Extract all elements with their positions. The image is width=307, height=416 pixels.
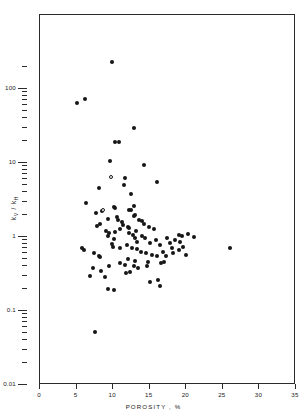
data-point xyxy=(150,253,154,257)
y-axis-minor-tick xyxy=(22,326,27,327)
data-point xyxy=(113,206,117,210)
y-axis-minor-tick xyxy=(22,275,27,276)
data-point xyxy=(144,251,148,255)
data-point xyxy=(145,264,149,268)
y-axis-tick-label: 100 xyxy=(5,85,16,91)
y-axis-major-tick xyxy=(18,88,27,89)
data-point xyxy=(139,250,143,254)
data-point xyxy=(110,60,114,64)
data-point xyxy=(171,251,175,255)
y-axis-minor-tick xyxy=(22,339,27,340)
data-points-layer xyxy=(40,15,294,383)
y-axis-title-numerator: k xyxy=(10,216,17,220)
x-axis-tick-label: 0 xyxy=(37,391,41,398)
x-axis-tick xyxy=(112,384,113,389)
x-axis-tick-label: 10 xyxy=(108,391,115,398)
y-axis-minor-tick xyxy=(22,169,27,170)
data-point xyxy=(136,266,140,270)
y-axis-minor-tick xyxy=(22,91,27,92)
y-axis-minor-tick xyxy=(22,178,27,179)
data-point xyxy=(135,240,139,244)
y-axis-title-denominator-sub: H xyxy=(14,196,19,200)
plot-area xyxy=(39,14,295,384)
data-point xyxy=(97,186,101,190)
data-point xyxy=(180,234,184,238)
data-point xyxy=(112,288,116,292)
y-axis-title-denominator: k xyxy=(10,200,17,204)
data-point xyxy=(181,245,185,249)
y-axis-minor-tick xyxy=(22,165,27,166)
y-axis-minor-tick xyxy=(22,332,27,333)
data-point xyxy=(148,280,152,284)
y-axis-minor-tick xyxy=(22,184,27,185)
x-axis: 05101520253035 POROSITY , % xyxy=(0,384,307,416)
y-axis-tick-label: 1 xyxy=(12,233,16,239)
data-point xyxy=(165,236,169,240)
data-point xyxy=(147,225,151,229)
data-point xyxy=(155,180,159,184)
data-point xyxy=(184,253,188,257)
y-axis-minor-tick xyxy=(22,258,27,259)
data-point xyxy=(129,192,133,196)
data-point xyxy=(106,234,110,238)
y-axis-minor-tick xyxy=(22,191,27,192)
data-point xyxy=(122,183,126,187)
y-axis-minor-tick xyxy=(22,127,27,128)
data-point xyxy=(164,254,168,258)
data-point xyxy=(135,247,139,251)
data-point xyxy=(128,270,132,274)
data-point xyxy=(92,251,96,255)
data-point xyxy=(177,248,181,252)
x-axis-tick xyxy=(222,384,223,389)
y-axis-minor-tick xyxy=(22,265,27,266)
data-point xyxy=(162,260,166,264)
x-axis-tick-label: 20 xyxy=(182,391,189,398)
data-point xyxy=(106,217,110,221)
data-point xyxy=(113,230,117,234)
x-axis-tick xyxy=(258,384,259,389)
x-axis-tick xyxy=(39,384,40,389)
y-axis-minor-tick xyxy=(22,99,27,100)
data-point xyxy=(132,126,136,130)
data-point xyxy=(117,140,121,144)
data-point xyxy=(109,175,113,179)
data-point xyxy=(111,245,115,249)
data-point xyxy=(112,237,116,241)
data-point xyxy=(133,259,137,263)
data-point xyxy=(98,255,102,259)
y-axis-minor-tick xyxy=(22,173,27,174)
data-point xyxy=(106,287,110,291)
data-point xyxy=(82,248,86,252)
data-point xyxy=(75,101,79,105)
x-axis-title: POROSITY , % xyxy=(0,403,307,410)
data-point xyxy=(146,260,150,264)
y-axis-minor-tick xyxy=(22,95,27,96)
data-point xyxy=(84,201,88,205)
data-point xyxy=(168,241,172,245)
data-point xyxy=(143,236,147,240)
data-point xyxy=(101,208,105,212)
data-point xyxy=(107,231,111,235)
data-point xyxy=(155,254,159,258)
y-axis-title-separator: / xyxy=(10,204,17,212)
data-point xyxy=(173,238,177,242)
y-axis-major-tick xyxy=(18,162,27,163)
data-point xyxy=(83,97,87,101)
y-axis-minor-tick xyxy=(22,66,27,67)
data-point xyxy=(91,266,95,270)
data-point xyxy=(148,241,152,245)
data-point xyxy=(158,243,162,247)
y-axis-minor-tick xyxy=(22,317,27,318)
x-axis-tick-label: 5 xyxy=(74,391,78,398)
data-point xyxy=(228,246,232,250)
data-point xyxy=(130,246,134,250)
data-point xyxy=(99,269,103,273)
data-point xyxy=(178,240,182,244)
y-axis: kV / kH 1001010.10.01 xyxy=(0,0,39,416)
x-axis-tick xyxy=(76,384,77,389)
y-axis-minor-tick xyxy=(22,362,27,363)
data-point xyxy=(123,263,127,267)
y-axis-minor-tick xyxy=(22,117,27,118)
y-axis-minor-tick xyxy=(22,201,27,202)
data-point xyxy=(93,330,97,334)
